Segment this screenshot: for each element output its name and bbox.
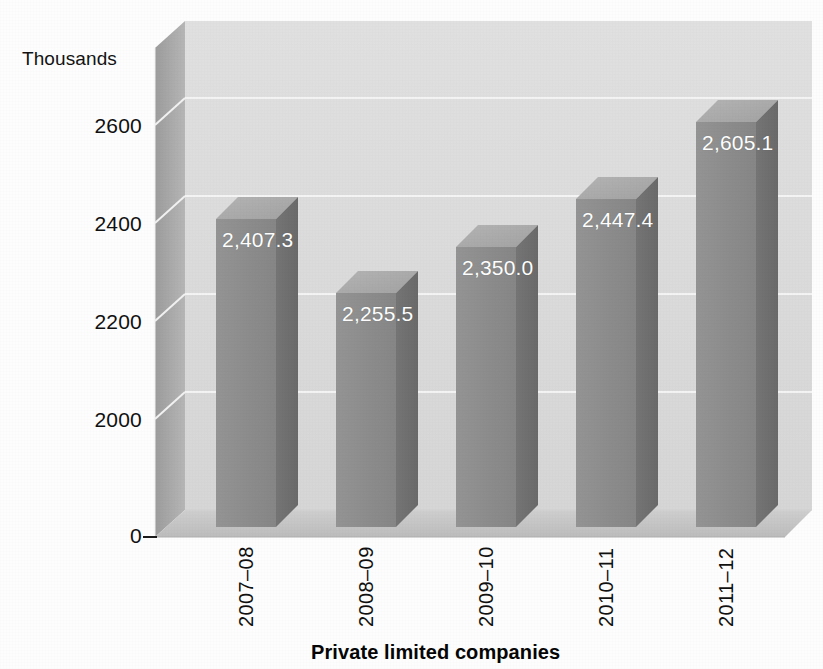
bar-value-label-2010-11: 2,447.4	[582, 208, 653, 232]
y-tick-label-0: 0	[20, 524, 142, 548]
bar-chart-figure: Thousands 2600 2400 2200 2000 0 2,407.3 …	[0, 0, 823, 669]
y-tick-label-2200: 2200	[20, 310, 142, 334]
y-axis-unit-label: Thousands	[22, 48, 117, 70]
x-tick-label-2009-10: 2009–10	[475, 546, 498, 627]
bar-value-label-2009-10: 2,350.0	[462, 256, 533, 280]
bar-2011-12[interactable]	[696, 100, 778, 527]
x-axis-title: Private limited companies	[311, 641, 560, 664]
y-tick-label-2000: 2000	[20, 408, 142, 432]
y-axis-spine	[143, 48, 157, 537]
y-tick-label-2400: 2400	[20, 212, 142, 236]
y-tick-label-2600: 2600	[20, 114, 142, 138]
chart-plot-area	[0, 0, 823, 669]
x-tick-label-2010-11: 2010–11	[595, 548, 618, 627]
bar-value-label-2008-09: 2,255.5	[342, 302, 413, 326]
bar-value-label-2011-12: 2,605.1	[702, 131, 773, 155]
x-tick-label-2008-09: 2008–09	[355, 546, 378, 627]
x-tick-label-2011-12: 2011–12	[715, 548, 738, 627]
x-tick-label-2007-08: 2007–08	[235, 546, 258, 627]
bar-value-label-2007-08: 2,407.3	[222, 228, 293, 252]
chart-left-wall	[155, 21, 185, 537]
